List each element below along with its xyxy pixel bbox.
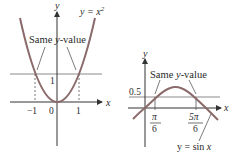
figure-canvas: Same y-value y x y = x2 1 −1 0 1 Same y-…: [0, 0, 235, 156]
left-y-axis-label: y: [54, 0, 60, 11]
right-x-axis-label: x: [223, 102, 229, 113]
left-x-axis-label: x: [105, 97, 111, 108]
parabola-label: y = x2: [79, 5, 105, 17]
left-x-tick-neg1: −1: [27, 106, 37, 116]
right-x-tick-5pi6-label: 5π 6: [188, 112, 203, 134]
right-leader-line-2: [189, 80, 196, 94]
left-y-tick-1: 1: [50, 76, 55, 86]
svg-text:5π: 5π: [189, 112, 199, 122]
right-curve-label-leader: [199, 114, 211, 141]
left-leader-line-2: [67, 47, 76, 70]
left-leader-line-1: [37, 47, 45, 70]
right-annotation: Same y-value: [150, 69, 207, 80]
left-x-tick-0: 0: [49, 106, 54, 116]
parabola-graph: Same y-value y x y = x2 1 −1 0 1: [10, 0, 111, 146]
svg-text:6: 6: [152, 124, 157, 134]
svg-text:6: 6: [193, 124, 198, 134]
sine-label: y = sin x: [177, 141, 212, 152]
sine-curve: [133, 87, 218, 120]
left-annotation: Same y-value: [29, 34, 86, 45]
right-y-tick-half: 0.5: [129, 87, 141, 97]
left-x-tick-1: 1: [76, 106, 81, 116]
right-x-tick-pi6-label: π 6: [150, 112, 161, 134]
sine-graph: Same y-value y x 0.5 π 6 5π 6 y = sin x: [128, 48, 229, 152]
right-leader-line-1: [155, 80, 160, 94]
right-y-axis-label: y: [142, 48, 148, 59]
svg-text:π: π: [152, 112, 157, 122]
